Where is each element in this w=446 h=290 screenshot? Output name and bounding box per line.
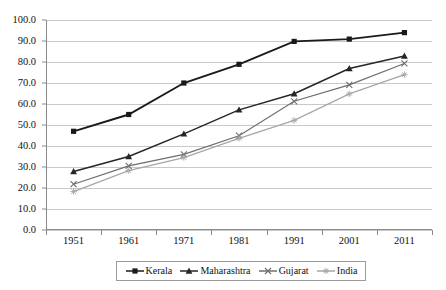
y-axis-tick-label: 50.0	[18, 120, 36, 131]
y-axis-tick-label: 70.0	[18, 78, 36, 89]
data-point-marker	[401, 53, 408, 59]
legend-item-gujarat[interactable]: Gujarat	[258, 266, 309, 276]
y-axis-tick-label: 10.0	[18, 204, 36, 215]
data-point-marker	[401, 60, 407, 66]
data-series-layer	[46, 20, 432, 230]
data-point-marker	[347, 37, 352, 42]
y-axis-tick-label: 20.0	[18, 183, 36, 194]
data-point-marker	[402, 30, 407, 35]
series-line	[74, 63, 405, 184]
x-axis-tick	[432, 230, 433, 235]
x-axis-tick-label: 1951	[63, 236, 84, 247]
x-axis-tick	[322, 230, 323, 235]
data-point-marker	[70, 188, 76, 194]
y-axis-tick-label: 0.0	[23, 225, 36, 236]
x-axis-tick	[211, 230, 212, 235]
data-point-marker	[71, 181, 77, 187]
data-point-marker	[126, 112, 131, 117]
series-line	[74, 75, 405, 192]
series-maharashtra	[70, 53, 408, 175]
data-point-marker	[236, 135, 242, 141]
y-axis-labels: 0.010.020.030.040.050.060.070.080.090.01…	[0, 20, 42, 230]
chart-legend: KeralaMaharashtraGujaratIndia	[116, 261, 366, 281]
legend-item-india[interactable]: India	[316, 266, 358, 276]
literacy-rate-line-chart: 0.010.020.030.040.050.060.070.080.090.01…	[0, 0, 446, 290]
data-point-marker	[292, 39, 297, 44]
data-point-marker	[71, 129, 76, 134]
x-axis-tick	[377, 230, 378, 235]
legend-label: Gujarat	[279, 266, 309, 276]
legend-item-maharashtra[interactable]: Maharashtra	[179, 266, 250, 276]
x-axis-tick-label: 1971	[173, 236, 194, 247]
x-axis-tick-label: 1981	[229, 236, 250, 247]
data-point-marker	[236, 62, 241, 67]
plot-area	[46, 20, 432, 230]
data-point-marker	[346, 91, 352, 97]
data-point-marker	[126, 167, 132, 173]
y-axis-tick-label: 90.0	[18, 36, 36, 47]
x-axis-labels: 1951196119711981199120012011	[46, 236, 432, 252]
legend-marker-icon	[125, 266, 145, 276]
legend-label: Maharashtra	[200, 266, 250, 276]
series-gujarat	[71, 60, 408, 187]
series-line	[74, 56, 405, 172]
data-point-marker	[401, 71, 407, 77]
legend-label: India	[337, 266, 358, 276]
legend-label: Kerala	[146, 266, 173, 276]
legend-item-kerala[interactable]: Kerala	[125, 266, 173, 276]
x-axis-tick-label: 1991	[284, 236, 305, 247]
legend-marker-icon	[179, 266, 199, 276]
x-axis-tick	[46, 230, 47, 235]
data-point-marker	[132, 268, 137, 273]
y-axis-tick-label: 100.0	[12, 15, 36, 26]
data-point-marker	[323, 268, 329, 274]
y-axis-tick-label: 30.0	[18, 162, 36, 173]
y-axis-tick-label: 80.0	[18, 57, 36, 68]
series-india	[70, 71, 407, 194]
x-axis-tick	[156, 230, 157, 235]
x-axis-tick-label: 2001	[339, 236, 360, 247]
series-line	[74, 33, 405, 132]
x-axis-tick-label: 1961	[118, 236, 139, 247]
data-point-marker	[181, 80, 186, 85]
legend-marker-icon	[258, 266, 278, 276]
y-axis-tick-label: 60.0	[18, 99, 36, 110]
data-point-marker	[291, 117, 297, 123]
data-point-marker	[181, 154, 187, 160]
x-axis-tick	[267, 230, 268, 235]
x-axis-tick-label: 2011	[394, 236, 415, 247]
legend-marker-icon	[316, 266, 336, 276]
x-axis-tick	[101, 230, 102, 235]
y-axis-tick-label: 40.0	[18, 141, 36, 152]
